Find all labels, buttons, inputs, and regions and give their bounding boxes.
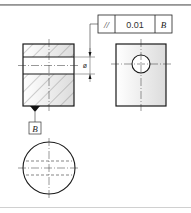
arrow-icon: [89, 74, 92, 79]
top-view: [18, 138, 80, 200]
side-view: [111, 39, 171, 111]
diameter-dimension: ø: [74, 48, 95, 82]
technical-drawing: // 0.01 B ø B: [0, 0, 191, 213]
tolerance-value: 0.01: [126, 20, 144, 30]
leader-line: [90, 24, 98, 52]
feature-control-frame: // 0.01 B: [98, 15, 172, 33]
datum-triangle-icon: [30, 106, 40, 112]
datum-reference: B: [161, 20, 167, 30]
arrow-icon: [89, 52, 92, 57]
diameter-symbol: ø: [83, 62, 88, 69]
datum-feature: B: [29, 106, 41, 134]
datum-label: B: [32, 124, 38, 134]
front-section-view: [18, 39, 80, 111]
